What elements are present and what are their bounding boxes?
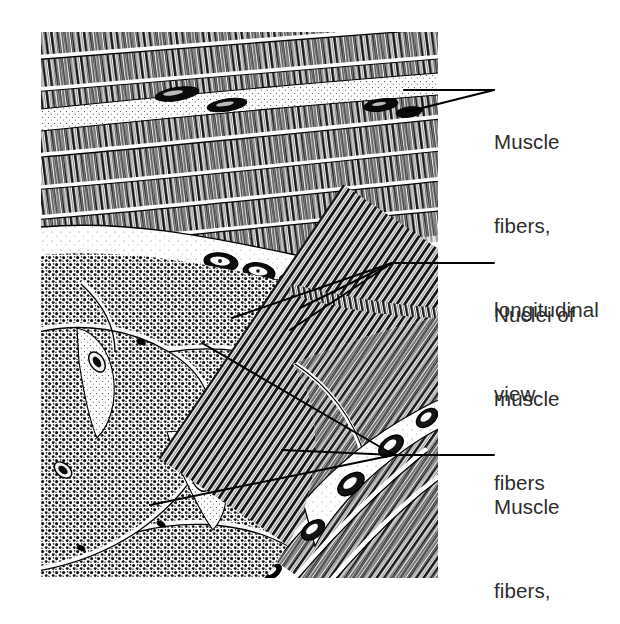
micrograph-panel: [41, 32, 438, 578]
label-line: fibers,: [494, 212, 599, 240]
figure-root: Muscle fibers, longitudinal view Nuclei …: [0, 0, 620, 624]
label-line: Muscle: [494, 128, 599, 156]
label-line: Nuclei of: [494, 301, 575, 329]
label-line: fibers,: [494, 577, 576, 605]
label-line: Muscle: [494, 493, 576, 521]
micrograph-artwork: [41, 32, 438, 578]
label-line: muscle: [494, 385, 575, 413]
label-muscle-fibers-cross-sectional: Muscle fibers, cross- sectional view: [494, 437, 576, 624]
